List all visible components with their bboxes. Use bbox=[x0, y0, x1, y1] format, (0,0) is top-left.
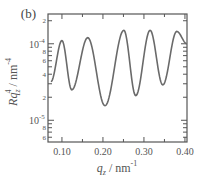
y-axis-title-var: Rq bbox=[6, 93, 20, 107]
y-tick-exponent: -5 bbox=[39, 113, 45, 121]
y-axis-title-sup2: -4 bbox=[4, 58, 13, 65]
y-minor-tick-label: 2 bbox=[43, 17, 47, 25]
x-tick-label: 0.30 bbox=[135, 146, 153, 157]
y-tick-base: 10 bbox=[29, 39, 39, 50]
y-minor-tick-label: 6 bbox=[43, 134, 47, 142]
x-axis-title-unit: / nm bbox=[106, 161, 131, 175]
x-tick-label: 0.40 bbox=[176, 146, 194, 157]
x-tick-label: 0.10 bbox=[53, 146, 71, 157]
reflectivity-chart: (b) 0.100.200.300.40 10-410-52864286 qz … bbox=[0, 0, 197, 183]
y-minor-tick-label: 6 bbox=[43, 57, 47, 65]
y-axis-title: Rqz4 / nm-4 bbox=[4, 58, 22, 107]
x-tick-label: 0.20 bbox=[94, 146, 112, 157]
x-axis-title: qz / nm-1 bbox=[97, 159, 137, 177]
y-tick-exponent: -4 bbox=[39, 37, 45, 45]
y-minor-tick-label: 8 bbox=[43, 124, 47, 132]
y-minor-tick-label: 2 bbox=[43, 94, 47, 102]
x-axis-title-sup: -1 bbox=[131, 159, 138, 168]
y-minor-tick-label: 4 bbox=[43, 71, 47, 79]
y-axis-title-unit: / nm bbox=[6, 64, 20, 89]
panel-label: (b) bbox=[21, 6, 36, 21]
y-minor-tick-label: 8 bbox=[43, 48, 47, 56]
y-tick-base: 10 bbox=[29, 115, 39, 126]
series-line-reflectivity bbox=[51, 30, 187, 105]
series-group bbox=[51, 30, 187, 105]
